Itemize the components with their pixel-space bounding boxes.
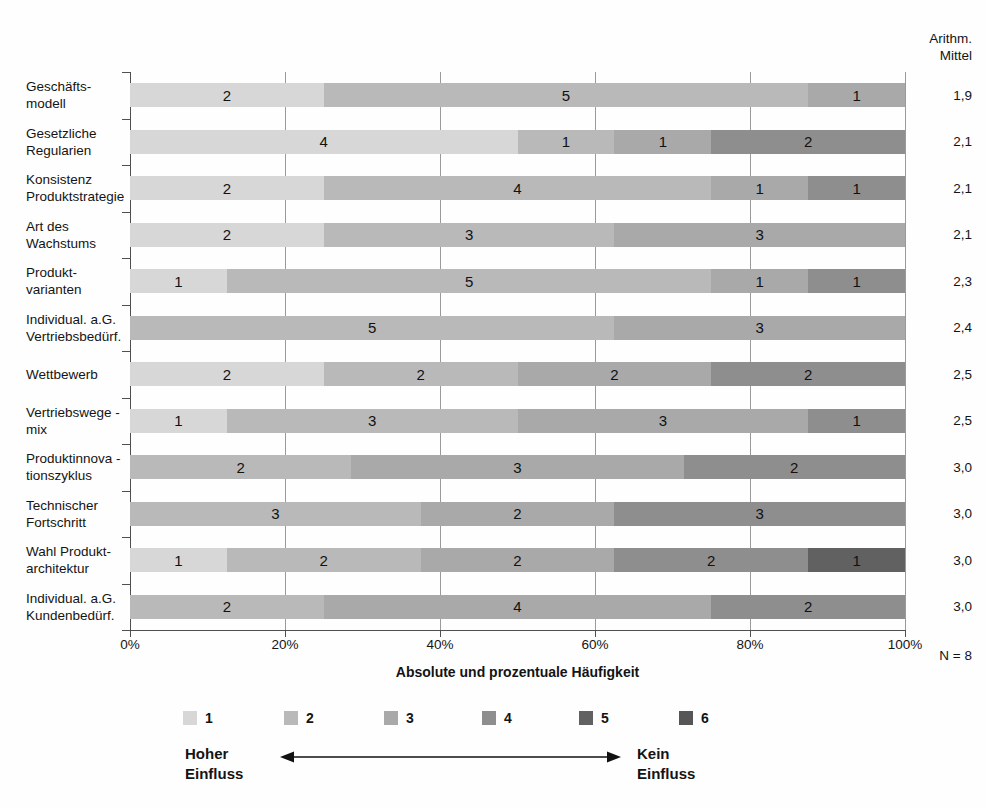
bar-segment-rating-4: 2: [711, 595, 905, 619]
segment-count-label: 4: [513, 180, 521, 197]
segment-count-label: 2: [804, 366, 812, 383]
bar-segment-rating-2: 2: [130, 595, 324, 619]
segment-count-label: 1: [562, 133, 570, 150]
segment-count-label: 2: [237, 459, 245, 476]
bar-segment-rating-3: 1: [711, 269, 808, 293]
arithmetic-mean-value: 2,3: [910, 258, 972, 305]
bar-segment-rating-1: 1: [130, 409, 227, 433]
chart-row: Produktinnova -tionszyklus2323,0: [130, 444, 905, 491]
arithmetic-mean-value: 3,0: [910, 491, 972, 538]
chart-row: Vertriebswege -mix13312,5: [130, 398, 905, 445]
legend-swatch-icon: [183, 711, 197, 725]
y-tick-mark: [122, 630, 130, 631]
legend-value-label: 2: [306, 710, 314, 726]
double-arrow-icon: [278, 748, 623, 766]
legend-item-4: 4: [482, 710, 512, 726]
bar-segment-rating-1: 4: [130, 130, 518, 154]
segment-count-label: 2: [223, 180, 231, 197]
category-label-line: Produktstrategie: [26, 188, 128, 205]
bar-segment-rating-1: 2: [130, 176, 324, 200]
bar-segment-rating-3: 3: [614, 223, 905, 247]
chart-row: Geschäfts-modell2511,9: [130, 72, 905, 119]
plot-area: Geschäfts-modell2511,9GesetzlicheRegular…: [130, 72, 905, 630]
category-label-line: Art des: [26, 218, 128, 235]
category-label-line: modell: [26, 95, 128, 112]
stacked-bar: 2222: [130, 362, 905, 386]
scale-left-line2: Einfluss: [185, 764, 243, 784]
category-label-line: Technischer: [26, 497, 128, 514]
segment-count-label: 1: [852, 412, 860, 429]
segment-count-label: 2: [790, 459, 798, 476]
segment-count-label: 3: [756, 319, 764, 336]
arithmetic-mean-value: 1,9: [910, 72, 972, 119]
scale-arrow: [278, 748, 623, 770]
segment-count-label: 2: [610, 366, 618, 383]
chart-row: GesetzlicheRegularien41122,1: [130, 119, 905, 166]
legend-value-label: 1: [205, 710, 213, 726]
category-label-line: Individual. a.G.: [26, 311, 128, 328]
arithmetic-mean-value: 2,1: [910, 212, 972, 259]
category-label-line: mix: [26, 421, 128, 438]
x-tick-label: 60%: [567, 637, 623, 652]
stacked-bar: 251: [130, 83, 905, 107]
segment-count-label: 2: [223, 226, 231, 243]
bar-segment-rating-4: 3: [614, 502, 905, 526]
bar-segment-rating-1: 2: [130, 362, 324, 386]
category-label: Produktinnova -tionszyklus: [26, 444, 128, 491]
category-label-line: Vertriebswege -: [26, 404, 128, 421]
bar-segment-rating-4: 2: [711, 362, 905, 386]
mean-column-header-line2: Mittel: [897, 47, 972, 64]
category-label: Individual. a.G.Vertriebsbedürf.: [26, 305, 128, 352]
segment-count-label: 2: [223, 366, 231, 383]
bar-segment-rating-1: 2: [130, 83, 324, 107]
segment-count-label: 3: [271, 505, 279, 522]
category-label: GesetzlicheRegularien: [26, 119, 128, 166]
chart-row: KonsistenzProduktstrategie24112,1: [130, 165, 905, 212]
segment-count-label: 5: [562, 87, 570, 104]
segment-count-label: 3: [659, 412, 667, 429]
category-label: TechnischerFortschritt: [26, 491, 128, 538]
category-label-line: Produkt-: [26, 264, 128, 281]
segment-count-label: 2: [513, 505, 521, 522]
stacked-bar: 12221: [130, 548, 905, 572]
category-label-line: Individual. a.G.: [26, 590, 128, 607]
stacked-bar: 2411: [130, 176, 905, 200]
stacked-bar: 53: [130, 316, 905, 340]
segment-count-label: 2: [223, 598, 231, 615]
legend-swatch-icon: [384, 711, 398, 725]
bar-segment-rating-2: 3: [324, 223, 615, 247]
bar-segment-rating-4: 2: [711, 130, 905, 154]
chart-row: Wahl Produkt-architektur122213,0: [130, 537, 905, 584]
legend-item-5: 5: [579, 710, 609, 726]
category-label-line: architektur: [26, 560, 128, 577]
segment-count-label: 2: [804, 133, 812, 150]
scale-left-line1: Hoher: [185, 744, 243, 764]
arithmetic-mean-value: 3,0: [910, 537, 972, 584]
segment-count-label: 2: [804, 598, 812, 615]
bar-segment-rating-2: 1: [518, 130, 615, 154]
bar-segment-rating-2: 5: [130, 316, 614, 340]
bar-segment-rating-3: 4: [324, 595, 712, 619]
segment-count-label: 3: [368, 412, 376, 429]
segment-count-label: 3: [513, 459, 521, 476]
segment-count-label: 3: [756, 226, 764, 243]
category-label-line: Geschäfts-: [26, 78, 128, 95]
legend-value-label: 4: [504, 710, 512, 726]
scale-label-high-influence: Hoher Einfluss: [185, 744, 243, 784]
bar-segment-rating-4: 2: [684, 455, 905, 479]
legend-swatch-icon: [482, 711, 496, 725]
segment-count-label: 2: [416, 366, 424, 383]
bar-segment-rating-3: 1: [711, 176, 808, 200]
bar-segment-rating-3: 3: [351, 455, 683, 479]
x-tick-label: 80%: [722, 637, 778, 652]
arithmetic-mean-value: 2,1: [910, 119, 972, 166]
bar-segment-rating-2: 2: [324, 362, 518, 386]
x-tick-label: 40%: [412, 637, 468, 652]
legend-item-2: 2: [284, 710, 314, 726]
bar-segment-rating-3: 3: [518, 409, 809, 433]
bar-segment-rating-3: 2: [421, 548, 615, 572]
segment-count-label: 1: [756, 273, 764, 290]
bar-segment-rating-2: 5: [227, 269, 711, 293]
bar-segment-rating-2: 2: [227, 548, 421, 572]
chart-row: Art desWachstums2332,1: [130, 212, 905, 259]
